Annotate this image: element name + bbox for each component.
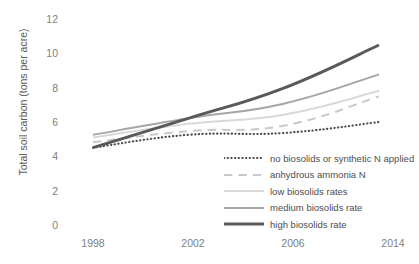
line-chart: Total soil carbon (tons per acre) 12 10 … [0, 0, 419, 264]
legend-item[interactable]: medium biosolids rate [224, 200, 419, 217]
y-tick-label: 2 [30, 186, 58, 197]
legend-item[interactable]: high biosolids rate [224, 216, 419, 233]
x-tick-label: 1998 [63, 238, 123, 249]
legend-label: medium biosolids rate [270, 203, 362, 213]
y-tick-label: 12 [30, 14, 58, 25]
x-tick-label: 2002 [163, 238, 223, 249]
legend-item[interactable]: low biosolids rates [224, 183, 419, 200]
y-tick-label: 4 [30, 151, 58, 162]
legend-swatch [224, 152, 264, 164]
y-axis-tick-labels: 12 10 8 6 4 2 0 [28, 0, 58, 264]
series-line [93, 91, 379, 138]
legend-label: high biosolids rate [270, 220, 347, 230]
y-tick-label: 8 [30, 83, 58, 94]
legend-item[interactable]: no biosolids or synthetic N applied [224, 150, 419, 167]
legend-label: no biosolids or synthetic N applied [270, 154, 414, 164]
legend-swatch [224, 185, 264, 197]
chart-legend: no biosolids or synthetic N appliedanhyd… [224, 150, 419, 233]
x-tick-label: 2014 [363, 238, 419, 249]
legend-label: low biosolids rates [270, 187, 348, 197]
y-tick-label: 10 [30, 48, 58, 59]
legend-swatch [224, 169, 264, 181]
legend-swatch [224, 218, 264, 230]
legend-label: anhydrous ammonia N [270, 170, 366, 180]
series-line [93, 45, 379, 148]
y-tick-label: 0 [30, 220, 58, 231]
x-tick-label: 2006 [263, 238, 323, 249]
legend-item[interactable]: anhydrous ammonia N [224, 167, 419, 184]
y-tick-label: 6 [30, 117, 58, 128]
legend-swatch [224, 202, 264, 214]
